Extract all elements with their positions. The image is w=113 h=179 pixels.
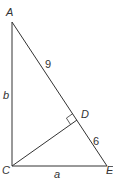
segment-label-ac: b	[3, 89, 9, 101]
vertex-label-e: E	[106, 164, 113, 176]
triangle-diagram: A C D E 9 6 b a	[0, 0, 113, 179]
segment-label-de: 6	[93, 135, 99, 147]
segment-label-ce: a	[54, 168, 60, 179]
altitude-cd	[12, 120, 77, 166]
vertex-label-d: D	[81, 108, 89, 120]
right-angle-marker-icon	[66, 114, 72, 125]
segment-label-ad: 9	[45, 58, 51, 70]
vertex-label-c: C	[2, 164, 10, 176]
vertex-label-a: A	[5, 6, 13, 18]
